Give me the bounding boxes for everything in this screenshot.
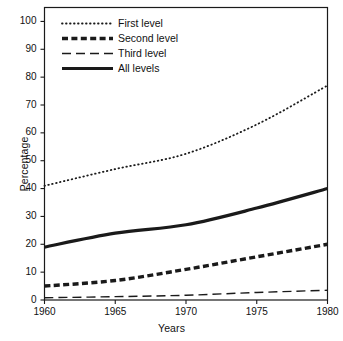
y-tick-label: 20 — [13, 238, 37, 249]
chart-figure: Percentage Years 0102030405060708090100 … — [0, 0, 343, 341]
y-tick-label: 0 — [13, 294, 37, 305]
x-tick-label: 1980 — [308, 306, 343, 317]
legend-item-third-level: Third level — [118, 47, 166, 59]
x-tick-label: 1975 — [237, 306, 277, 317]
x-tick-label: 1965 — [95, 306, 135, 317]
x-tick-label: 1960 — [25, 306, 65, 317]
line-chart-plot — [0, 0, 343, 341]
x-tick-label: 1970 — [166, 306, 206, 317]
y-tick-label: 90 — [13, 43, 37, 54]
y-tick-label: 10 — [13, 266, 37, 277]
legend-sample-lines — [62, 24, 113, 69]
series-line-second-level — [45, 244, 328, 286]
y-tick-label: 50 — [13, 154, 37, 165]
series-line-third-level — [45, 290, 328, 298]
data-series-group — [45, 86, 328, 298]
y-tick-label: 100 — [13, 15, 37, 26]
y-tick-label: 40 — [13, 182, 37, 193]
y-tick-label: 60 — [13, 126, 37, 137]
legend-item-all-levels: All levels — [118, 62, 159, 74]
legend-item-second-level: Second level — [118, 32, 178, 44]
x-axis-title: Years — [0, 322, 343, 334]
y-tick-label: 30 — [13, 210, 37, 221]
series-line-all-levels — [45, 189, 328, 248]
y-tick-label: 80 — [13, 71, 37, 82]
legend-item-first-level: First level — [118, 17, 163, 29]
y-tick-label: 70 — [13, 99, 37, 110]
series-line-first-level — [45, 86, 328, 186]
